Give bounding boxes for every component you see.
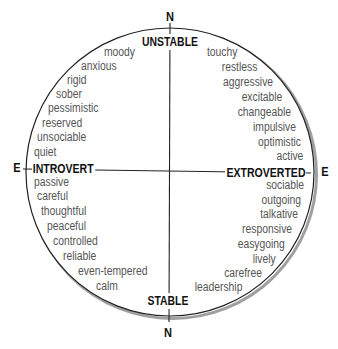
- trait-word: peaceful: [47, 219, 86, 233]
- trait-word: carefree: [224, 266, 262, 280]
- trait-word: pessimistic: [48, 101, 98, 115]
- trait-word: passive: [34, 175, 69, 189]
- trait-word: responsive: [242, 222, 292, 236]
- personality-circle-diagram: N N E E UNSTABLE STABLE INTROVERT EXTROV…: [0, 0, 338, 349]
- trait-word: moody: [104, 45, 135, 59]
- trait-word: calm: [96, 279, 118, 293]
- trait-word: leadership: [194, 280, 242, 294]
- trait-word: sober: [56, 87, 82, 101]
- axis-label-north-top: N: [166, 9, 174, 25]
- trait-word: optimistic: [258, 135, 301, 149]
- axis-label-north-bottom: N: [164, 325, 172, 341]
- trait-word: talkative: [260, 207, 298, 221]
- trait-word: easygoing: [238, 237, 285, 251]
- trait-word: outgoing: [261, 193, 301, 207]
- trait-word: impulsive: [253, 120, 296, 134]
- trait-word: rigid: [67, 73, 87, 87]
- trait-word: controlled: [53, 234, 98, 248]
- trait-word: active: [276, 149, 303, 163]
- trait-word: excitable: [241, 90, 282, 104]
- trait-word: quiet: [34, 145, 56, 159]
- trait-word: thoughtful: [41, 204, 86, 218]
- trait-word: even-tempered: [78, 264, 147, 278]
- trait-word: restless: [221, 60, 257, 74]
- pole-label-unstable: UNSTABLE: [141, 34, 200, 50]
- trait-word: lively: [253, 252, 276, 266]
- trait-word: reserved: [42, 116, 82, 130]
- trait-word: touchy: [207, 45, 237, 59]
- trait-word: aggressive: [223, 75, 273, 89]
- trait-word: reliable: [63, 249, 96, 263]
- trait-word: sociable: [266, 178, 304, 192]
- trait-word: changeable: [238, 105, 291, 119]
- trait-word: careful: [37, 189, 68, 203]
- axis-label-east-left: E: [13, 160, 20, 176]
- trait-word: unsociable: [37, 130, 86, 144]
- trait-word: anxious: [81, 59, 117, 73]
- axis-label-east-right: E: [321, 164, 328, 180]
- pole-label-stable: STABLE: [146, 293, 190, 309]
